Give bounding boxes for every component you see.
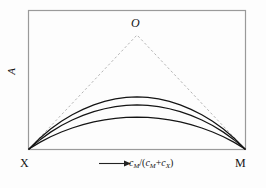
corner-label-x: X [20, 157, 29, 169]
y-axis-label: A [6, 68, 17, 75]
x-axis-label: cM/(cM+cX) [129, 158, 173, 170]
x-axis-arrow-icon [99, 160, 131, 166]
corner-label-m: M [235, 157, 246, 169]
apex-label-o: O [131, 17, 140, 29]
plot-frame [29, 11, 246, 150]
curve-2-middle [29, 105, 245, 149]
x-label-close-paren: ) [170, 157, 173, 168]
activity-diagram-figure: O X M A cM/(cM+cX) [0, 0, 266, 188]
